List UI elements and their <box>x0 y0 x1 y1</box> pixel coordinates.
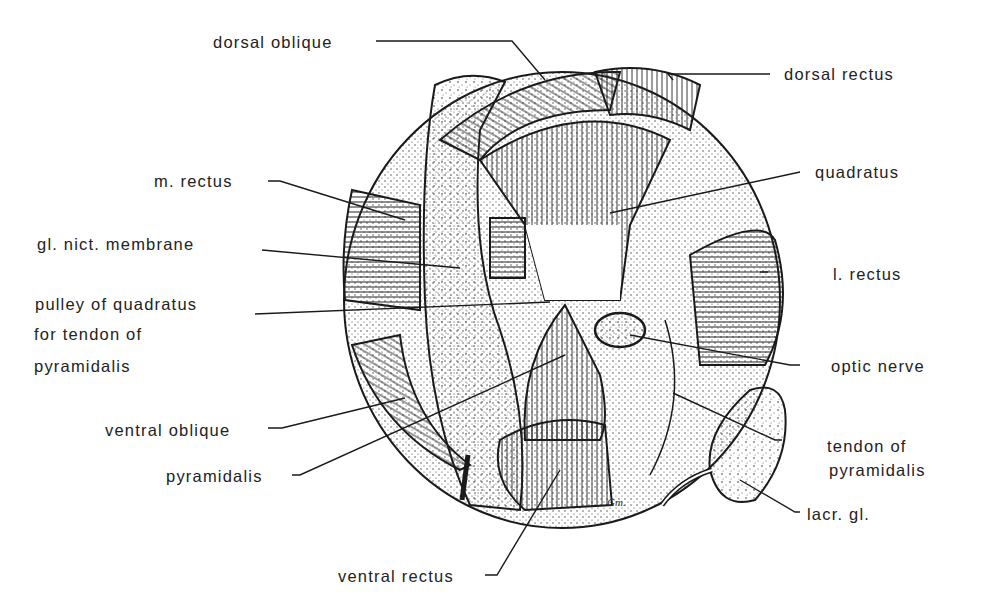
label-ventral-oblique: ventral oblique <box>105 422 230 439</box>
label-tendon-line2: pyramidalis <box>829 462 926 479</box>
label-gl-nict-membrane: gl. nict. membrane <box>37 236 194 253</box>
label-dorsal-rectus: dorsal rectus <box>784 66 894 83</box>
label-m-rectus: m. rectus <box>154 173 233 190</box>
label-lacr-gl: lacr. gl. <box>807 506 870 523</box>
label-ventral-rectus: ventral rectus <box>338 568 454 585</box>
optic-nerve <box>595 313 645 347</box>
m-rectus-muscle <box>344 190 420 310</box>
l-rectus-muscle <box>690 230 783 365</box>
label-pulley-line3: pyramidalis <box>34 358 131 375</box>
label-quadratus: quadratus <box>815 164 899 181</box>
label-tendon-line1: tendon of <box>827 438 907 455</box>
rectus-stub <box>490 218 525 278</box>
label-optic-nerve: optic nerve <box>831 358 925 375</box>
label-pulley-line2: for tendon of <box>34 326 142 343</box>
label-pulley-line1: pulley of quadratus <box>35 296 197 313</box>
label-l-rectus: l. rectus <box>833 266 902 283</box>
label-dorsal-oblique: dorsal oblique <box>213 34 333 51</box>
label-pyramidalis: pyramidalis <box>166 468 263 485</box>
ventral-rectus-muscle <box>498 420 612 510</box>
signature: Gm. <box>607 496 626 508</box>
